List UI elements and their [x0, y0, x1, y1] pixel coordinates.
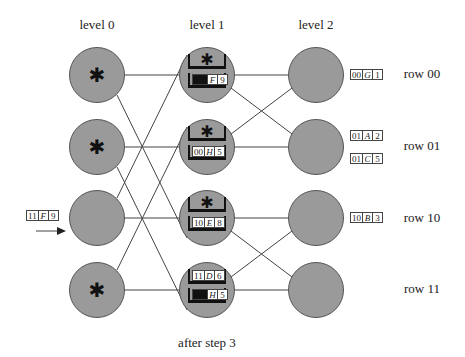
level1-node-row10: ✱ 10 E 8 — [179, 190, 235, 246]
top-buffer: 11 D 6 — [188, 269, 226, 284]
row-label-11: row 11 — [404, 281, 440, 297]
top-buffer: ✱ — [188, 197, 226, 212]
level2-node-row10 — [288, 190, 344, 246]
packet: H 5 — [192, 289, 228, 300]
arrow-head-icon — [57, 227, 66, 235]
level2-node-row11 — [288, 262, 344, 318]
star-icon: ✱ — [89, 280, 106, 300]
level0-node-row01: ✱ — [69, 119, 125, 175]
output-packet-row01-b: 01 C 5 — [350, 153, 383, 164]
blank-address — [192, 74, 208, 85]
blank-address — [192, 289, 208, 300]
packet: 10 E 8 — [192, 217, 225, 228]
star-icon: ✱ — [89, 65, 106, 85]
level1-node-row11: 11 D 6 H 5 — [179, 262, 235, 318]
level0-node-row11: ✱ — [69, 262, 125, 318]
star-icon: ✱ — [89, 137, 106, 157]
level2-node-row00 — [288, 47, 344, 103]
bottom-buffer: 00 H 5 — [188, 145, 226, 160]
top-buffer: ✱ — [188, 126, 226, 141]
star-icon: ✱ — [200, 195, 213, 211]
packet: 11 D 6 — [192, 270, 225, 281]
output-packet-row10: 10 B 3 — [350, 212, 383, 223]
caption: after step 3 — [178, 335, 236, 351]
level1-node-row01: ✱ 00 H 5 — [179, 119, 235, 175]
row-label-00: row 00 — [404, 66, 440, 82]
level1-node-row00: ✱ F 9 — [179, 47, 235, 103]
star-icon: ✱ — [200, 124, 213, 140]
packet: F 9 — [192, 74, 228, 85]
bottom-buffer: F 9 — [188, 73, 226, 88]
row-label-01: row 01 — [404, 138, 440, 154]
incoming-packet: 11 F 9 — [26, 210, 59, 221]
row-label-10: row 10 — [404, 210, 440, 226]
level2-node-row01 — [288, 119, 344, 175]
level-2-label: level 2 — [298, 17, 333, 33]
bottom-buffer: 10 E 8 — [188, 216, 226, 231]
top-buffer: ✱ — [188, 54, 226, 69]
bottom-buffer: H 5 — [188, 288, 226, 303]
output-packet-row00: 00 G 1 — [350, 69, 383, 80]
output-packet-row01-a: 01 A 2 — [350, 130, 383, 141]
level-0-label: level 0 — [79, 17, 114, 33]
level0-node-row00: ✱ — [69, 47, 125, 103]
star-icon: ✱ — [200, 52, 213, 68]
packet: 00 H 5 — [192, 146, 225, 157]
level0-node-row10 — [69, 190, 125, 246]
level-1-label: level 1 — [189, 17, 224, 33]
network-edges — [0, 0, 465, 357]
